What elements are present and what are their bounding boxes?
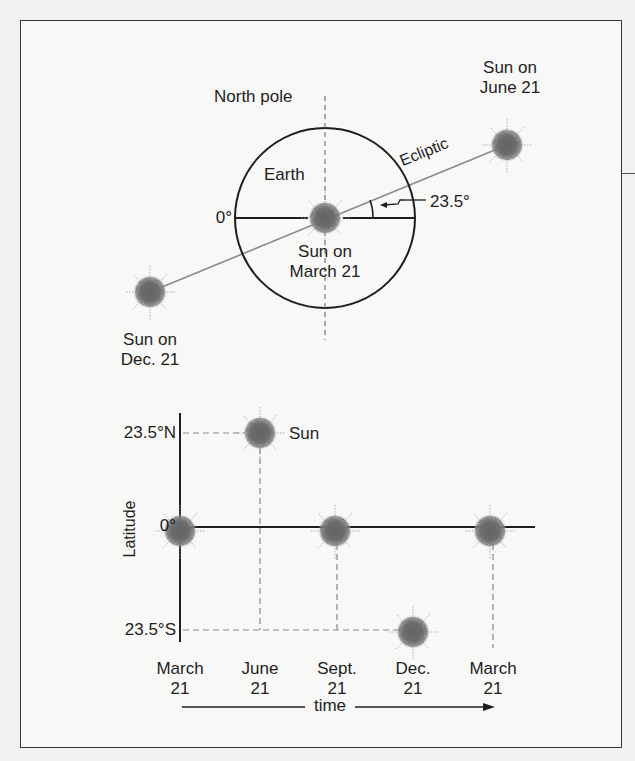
chart-sun-sept — [311, 505, 361, 559]
x-tick-day: 21 — [458, 679, 528, 699]
sun-dec-label: Sun on Dec. 21 — [115, 330, 185, 370]
x-tick-march: March 21 — [150, 659, 210, 699]
y-tick-zero: 0° — [130, 516, 176, 536]
chart-sun-june — [236, 407, 286, 461]
x-tick-month: Sept. — [307, 659, 367, 679]
sun-june-label: Sun on June 21 — [470, 58, 550, 98]
x-tick-month: March — [150, 659, 210, 679]
sun-annotation: Sun — [289, 424, 319, 444]
diagram-artwork — [0, 0, 635, 761]
north-pole-label: North pole — [214, 87, 292, 107]
chart-sun-march-2 — [466, 505, 516, 559]
x-tick-month: Dec. — [383, 659, 443, 679]
x-tick-dec: Dec. 21 — [383, 659, 443, 699]
x-tick-sept: Sept. 21 — [307, 659, 367, 699]
x-tick-month: March — [458, 659, 528, 679]
x-tick-june: June 21 — [230, 659, 290, 699]
time-arrow-head — [483, 703, 495, 711]
x-tick-day: 21 — [230, 679, 290, 699]
sun-dec-21 — [126, 266, 176, 320]
sun-june-21 — [483, 119, 533, 173]
angle-label: 23.5° — [430, 192, 470, 212]
earth-label: Earth — [264, 165, 305, 185]
y-tick-north: 23.5°N — [110, 423, 176, 443]
top-diagram — [126, 96, 533, 340]
sun-march-label: Sun on March 21 — [280, 242, 370, 282]
y-tick-south: 23.5°S — [110, 620, 176, 640]
x-tick-month: June — [230, 659, 290, 679]
chart-sun-dec — [389, 606, 439, 660]
angle-arrow-head — [380, 202, 387, 208]
x-tick-day: 21 — [383, 679, 443, 699]
x-tick-march-2: March 21 — [458, 659, 528, 699]
equator-label: 0° — [196, 208, 232, 228]
x-tick-day: 21 — [150, 679, 210, 699]
x-axis-label: time — [306, 696, 354, 716]
angle-arc — [370, 200, 373, 218]
